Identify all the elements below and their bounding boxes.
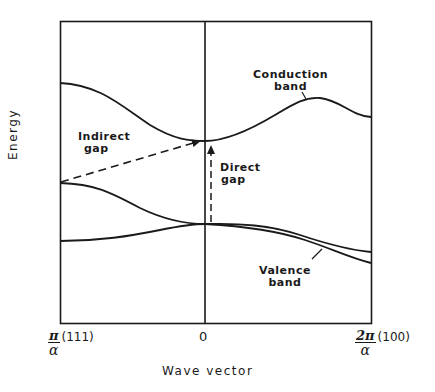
tick-left: π α (111) [48,329,94,357]
tick-right-direction: (100) [378,330,410,344]
conduction-label-line2: band [253,81,328,93]
tick-center: 0 [199,329,207,344]
plot-frame [61,22,372,324]
tick-right: 2π α (100) [355,329,410,357]
indirect-label-line2: gap [78,143,130,155]
x-axis-label: Wave vector [162,364,253,378]
tick-right-numerator: 2π [355,329,376,343]
indirect-gap-label: Indirect gap [78,131,130,155]
conduction-band-label: Conduction band [253,69,328,93]
tick-left-denominator: α [49,343,58,357]
tick-left-numerator: π [48,329,60,343]
conduction-label-leader [302,92,306,99]
valence-band-label: Valence band [259,265,311,289]
valence-label-leader [312,249,322,259]
y-axis-label: Energy [6,109,20,160]
tick-right-denominator: α [361,343,370,357]
tick-left-direction: (111) [62,330,94,344]
direct-label-line2: gap [220,174,261,186]
valence-label-line2: band [259,277,311,289]
direct-gap-label: Direct gap [220,162,261,186]
